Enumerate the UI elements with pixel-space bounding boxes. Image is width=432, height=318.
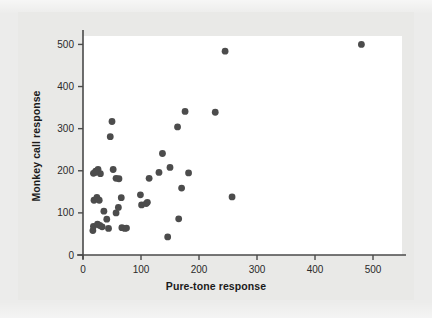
scatter-point [229, 193, 236, 200]
scatter-point [159, 150, 166, 157]
scatter-point [164, 233, 171, 240]
scatter-point [178, 185, 185, 192]
scatter-point [100, 208, 107, 215]
scatter-point [137, 191, 144, 198]
scatter-point [167, 164, 174, 171]
scatter-point [123, 225, 130, 232]
plot-area-background [83, 36, 402, 255]
x-tick-label: 200 [191, 264, 208, 275]
scatter-point [103, 216, 110, 223]
x-tick-label: 0 [80, 264, 86, 275]
scatter-plot: 01002003004005000100200300400500 [18, 12, 414, 300]
scatter-point [182, 108, 189, 115]
x-tick-label: 400 [307, 264, 324, 275]
scatter-point [175, 215, 182, 222]
scatter-point [146, 175, 153, 182]
scatter-point [109, 118, 116, 125]
scatter-point [185, 169, 192, 176]
scatter-point [143, 200, 150, 207]
scatter-point [174, 124, 181, 131]
scatter-point [110, 166, 117, 173]
scatter-point [116, 175, 123, 182]
scatter-point [358, 41, 365, 48]
screenshot-page: 01002003004005000100200300400500 Monkey … [0, 0, 432, 318]
scatter-point [107, 133, 114, 140]
y-tick-label: 400 [57, 81, 74, 92]
y-tick-label: 300 [57, 123, 74, 134]
scatter-point [118, 194, 125, 201]
x-tick-label: 500 [365, 264, 382, 275]
y-axis-title-wrap: Monkey call response [30, 46, 46, 246]
scatter-point [99, 223, 106, 230]
x-tick-label: 100 [133, 264, 150, 275]
y-tick-label: 200 [57, 165, 74, 176]
y-tick-label: 0 [68, 250, 74, 261]
scatter-point [212, 109, 219, 116]
chart-figure-panel: 01002003004005000100200300400500 Monkey … [18, 12, 414, 300]
scatter-point [92, 169, 99, 176]
scatter-point [105, 225, 112, 232]
scatter-point [156, 169, 163, 176]
scatter-point [115, 204, 122, 211]
y-tick-label: 100 [57, 207, 74, 218]
scatter-point [96, 197, 103, 204]
y-axis-title: Monkey call response [30, 46, 42, 246]
x-tick-label: 300 [249, 264, 266, 275]
scatter-point [89, 227, 96, 234]
y-tick-label: 500 [57, 39, 74, 50]
x-axis-title: Pure-tone response [18, 280, 414, 292]
scatter-point [222, 48, 229, 55]
